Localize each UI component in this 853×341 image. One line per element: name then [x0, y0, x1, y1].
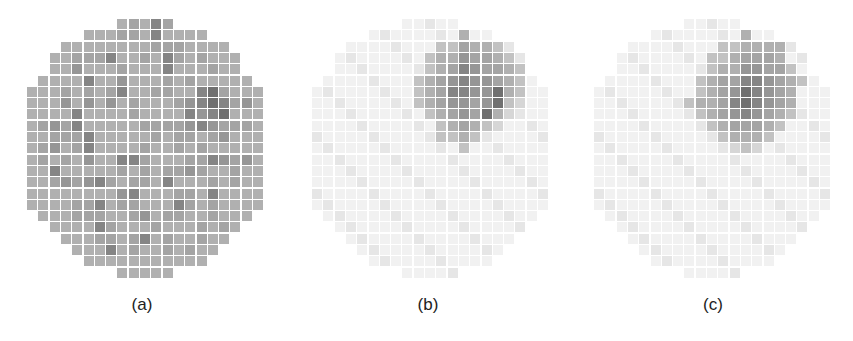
die-cell: [707, 64, 717, 74]
die-cell: [335, 177, 345, 187]
die-cell: [673, 64, 683, 74]
die-cell: [482, 234, 492, 244]
die-cell: [174, 121, 184, 131]
die-cell: [414, 132, 424, 142]
die-cell: [129, 64, 139, 74]
die-cell: [414, 64, 424, 74]
die-cell: [369, 166, 379, 176]
die-cell: [470, 76, 480, 86]
die-cell: [242, 189, 252, 199]
die-cell: [335, 189, 345, 199]
die-cell: [129, 98, 139, 108]
die-cell: [538, 98, 548, 108]
die-cell: [730, 76, 740, 86]
die-cell: [651, 177, 661, 187]
die-cell: [95, 177, 105, 187]
die-cell: [369, 155, 379, 165]
die-cell: [820, 109, 830, 119]
die-cell: [617, 121, 627, 131]
die-cell: [741, 76, 751, 86]
die-cell: [696, 30, 706, 40]
die-cell: [197, 53, 207, 63]
die-cell: [230, 132, 240, 142]
die-cell: [230, 98, 240, 108]
die-cell: [436, 155, 446, 165]
die-cell: [346, 211, 356, 221]
die-cell: [482, 222, 492, 232]
die-cell: [425, 42, 435, 52]
die-cell: [323, 121, 333, 131]
die-cell: [696, 256, 706, 266]
die-cell: [117, 211, 127, 221]
die-cell: [163, 155, 173, 165]
die-cell: [185, 211, 195, 221]
die-cell: [707, 121, 717, 131]
die-cell: [673, 177, 683, 187]
die-cell: [242, 87, 252, 97]
die-cell: [163, 64, 173, 74]
die-cell: [707, 166, 717, 176]
die-cell: [752, 42, 762, 52]
die-cell: [436, 87, 446, 97]
die-cell: [639, 98, 649, 108]
die-cell: [185, 76, 195, 86]
die-cell: [391, 200, 401, 210]
die-cell: [95, 143, 105, 153]
die-cell: [696, 53, 706, 63]
die-cell: [208, 189, 218, 199]
die-cell: [459, 155, 469, 165]
die-cell: [219, 200, 229, 210]
die-cell: [470, 234, 480, 244]
die-cell: [707, 30, 717, 40]
die-cell: [504, 200, 514, 210]
die-cell: [504, 166, 514, 176]
die-cell: [448, 143, 458, 153]
die-cell: [163, 19, 173, 29]
die-cell: [380, 30, 390, 40]
die-cell: [538, 109, 548, 119]
die-cell: [72, 177, 82, 187]
die-cell: [84, 256, 94, 266]
die-cell: [219, 222, 229, 232]
die-cell: [402, 234, 412, 244]
die-cell: [730, 87, 740, 97]
die-cell: [639, 109, 649, 119]
die-cell: [730, 245, 740, 255]
die-cell: [369, 234, 379, 244]
die-cell: [151, 132, 161, 142]
die-cell: [786, 132, 796, 142]
die-cell: [775, 234, 785, 244]
die-cell: [346, 121, 356, 131]
die-cell: [117, 222, 127, 232]
die-cell: [414, 109, 424, 119]
die-cell: [163, 189, 173, 199]
die-cell: [335, 132, 345, 142]
die-cell: [323, 200, 333, 210]
die-cell: [335, 222, 345, 232]
die-cell: [775, 166, 785, 176]
die-cell: [459, 87, 469, 97]
die-cell: [436, 200, 446, 210]
die-cell: [50, 166, 60, 176]
die-cell: [718, 234, 728, 244]
die-cell: [163, 109, 173, 119]
die-cell: [730, 109, 740, 119]
die-cell: [515, 211, 525, 221]
die-cell: [335, 155, 345, 165]
die-cell: [219, 177, 229, 187]
die-cell: [741, 109, 751, 119]
die-cell: [106, 53, 116, 63]
die-cell: [346, 222, 356, 232]
die-cell: [357, 109, 367, 119]
die-cell: [673, 256, 683, 266]
die-cell: [84, 53, 94, 63]
die-cell: [775, 155, 785, 165]
die-cell: [27, 200, 37, 210]
die-cell: [163, 30, 173, 40]
die-cell: [151, 256, 161, 266]
die-cell: [594, 166, 604, 176]
die-cell: [414, 245, 424, 255]
die-cell: [335, 98, 345, 108]
die-cell: [140, 76, 150, 86]
die-cell: [323, 177, 333, 187]
